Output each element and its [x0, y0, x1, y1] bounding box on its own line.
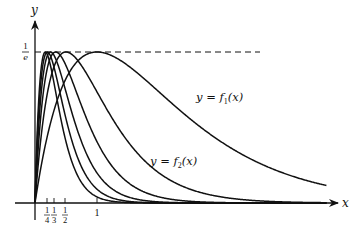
- svg-text:1: 1: [23, 41, 28, 51]
- x-tick-one: 1: [95, 198, 100, 218]
- svg-text:1: 1: [95, 207, 100, 218]
- svg-text:e: e: [23, 53, 28, 62]
- x-tick-half: 1 2: [62, 198, 68, 225]
- label-f2: y = f2(x): [149, 154, 197, 170]
- label-f1: y = f1(x): [195, 90, 243, 106]
- y-axis-label: y: [30, 3, 38, 17]
- curve-f4: [35, 52, 326, 203]
- svg-text:2: 2: [63, 215, 67, 225]
- chart-canvas: x y 1 e 1 4 1 3 1 2 1 y = f1(x) y = f2(x…: [0, 0, 362, 232]
- svg-text:1: 1: [45, 205, 49, 215]
- x-tick-third: 1 3: [51, 198, 57, 225]
- curve-f2: [35, 52, 326, 203]
- curve-f6: [35, 52, 326, 203]
- y-tick-1-over-e: 1 e: [22, 41, 29, 62]
- x-tick-quarter: 1 4: [44, 198, 50, 225]
- svg-text:4: 4: [45, 215, 50, 225]
- curve-f3: [35, 52, 326, 203]
- curve-f5: [35, 52, 326, 203]
- svg-text:3: 3: [52, 215, 56, 225]
- curve-group: [35, 52, 326, 203]
- x-axis-label: x: [342, 196, 349, 210]
- svg-text:1: 1: [63, 205, 67, 215]
- svg-text:1: 1: [52, 205, 56, 215]
- curve-f1: [35, 52, 326, 203]
